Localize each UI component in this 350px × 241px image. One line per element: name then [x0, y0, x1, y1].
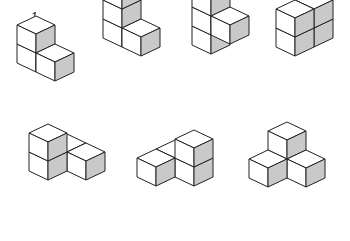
- figure-5: 5: [29, 124, 105, 180]
- figure-4: 4: [276, 0, 333, 56]
- figure-6: 6: [137, 130, 213, 186]
- figure-3: 3: [192, 0, 249, 54]
- figure-2: 2: [103, 0, 160, 56]
- figure-1: 1: [17, 10, 74, 81]
- cube-figures-diagram: 1234567: [0, 0, 350, 241]
- figure-7: 7: [249, 122, 325, 187]
